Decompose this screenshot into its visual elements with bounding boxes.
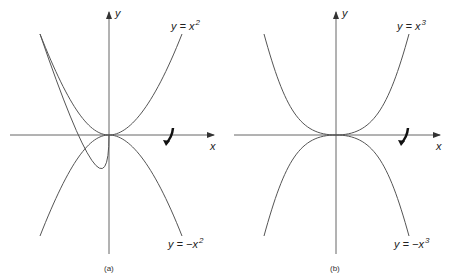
lower-curve-label-a: y = −x2 <box>168 236 203 250</box>
caption-a: (a) <box>104 264 114 273</box>
y-axis-label-a: y <box>115 7 121 19</box>
caption-b: (b) <box>330 264 340 273</box>
curve-y-x2-right <box>109 34 182 169</box>
lower-curve-expr-b: y = −x <box>394 238 424 250</box>
upper-curve-expr-a: y = x <box>171 20 195 32</box>
curve-y-x2 <box>40 34 109 169</box>
panel-a <box>10 12 214 254</box>
panel-b <box>234 12 440 254</box>
parabola-up <box>40 34 182 135</box>
diagram-canvas <box>0 0 452 277</box>
x-axis-label-a: x <box>210 140 216 152</box>
lower-curve-label-b: y = −x3 <box>394 236 429 250</box>
upper-curve-label-b: y = x3 <box>397 18 426 32</box>
upper-curve-label-a: y = x2 <box>171 18 200 32</box>
x-axis-label-b: x <box>436 140 442 152</box>
upper-curve-exp-b: 3 <box>422 18 426 27</box>
parabola-down <box>40 135 182 236</box>
upper-curve-exp-a: 2 <box>196 18 200 27</box>
upper-curve-expr-b: y = x <box>397 20 421 32</box>
lower-curve-exp-b: 3 <box>425 236 429 245</box>
lower-curve-exp-a: 2 <box>199 236 203 245</box>
lower-curve-expr-a: y = −x <box>168 238 198 250</box>
y-axis-label-b: y <box>342 7 348 19</box>
